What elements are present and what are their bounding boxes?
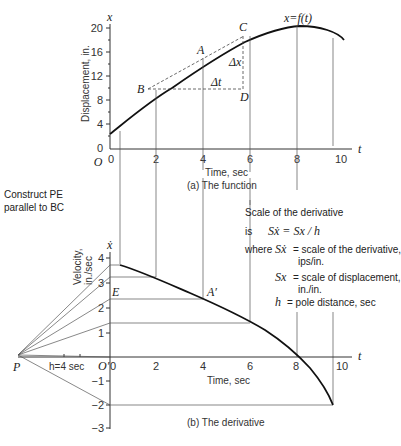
bottom-y-tick-neg3: −3 — [91, 422, 104, 434]
scale-formula: Sẋ = Sx / h — [268, 224, 320, 238]
bottom-y-label-2: in./sec — [83, 256, 94, 285]
pole-distance-label: h=4 sec — [49, 361, 84, 372]
bottom-y-axis-symbol: ẋ — [106, 238, 113, 252]
bottom-origin-label: O′ — [98, 359, 110, 373]
top-y-tick-8: 8 — [97, 94, 103, 106]
point-d: D — [239, 90, 249, 104]
bottom-x-tick-6: 6 — [247, 360, 253, 372]
bottom-y-tick-1: 1 — [98, 327, 104, 339]
scale-title: Scale of the derivative — [245, 207, 344, 218]
def3-text: = pole distance, sec — [287, 297, 376, 308]
bottom-y-tick-4: 4 — [98, 252, 104, 264]
top-y-tick-20: 20 — [91, 22, 103, 34]
def1-text: = scale of the derivative, — [293, 244, 401, 255]
displacement-curve — [110, 26, 344, 134]
bottom-x-tick-4: 4 — [200, 360, 206, 372]
delta-x-label: Δx — [228, 55, 242, 69]
bottom-x-tick-2: 2 — [153, 360, 159, 372]
def1-unit: ips/in. — [298, 256, 324, 267]
top-x-tick-0: 0 — [108, 153, 114, 165]
def1-symbol: Sẋ — [275, 242, 287, 256]
def2-unit: in./in. — [298, 284, 322, 295]
scale-note: Scale of the derivative is Sẋ = Sx / h w… — [244, 207, 401, 309]
construct-note: Construct PE parallel to BC — [4, 189, 64, 213]
top-y-axis-symbol: x — [106, 10, 113, 24]
top-y-tick-4: 4 — [97, 118, 103, 130]
def2-symbol: Sx — [275, 270, 287, 284]
construct-line-1: Construct PE — [4, 189, 63, 200]
top-y-tick-16: 16 — [91, 46, 103, 58]
point-a: A — [196, 43, 205, 57]
top-y-ticks — [106, 28, 110, 136]
pole-label: P — [12, 360, 21, 374]
bottom-y-label-1: Velocity, — [72, 249, 83, 286]
bottom-y-tick-2: 2 — [98, 302, 104, 314]
top-y-tick-0: 0 — [97, 142, 103, 154]
point-b: B — [137, 82, 145, 96]
bottom-x-label: Time, sec — [207, 375, 250, 386]
top-x-tick-10: 10 — [335, 153, 347, 165]
scale-where: where — [244, 244, 273, 255]
bottom-x-tick-0: 0 — [110, 360, 116, 372]
bottom-x-axis-symbol: t — [358, 349, 362, 363]
derivative-construction-diagram: 0 4 8 12 16 20 x t Displacement, in. O 0… — [0, 0, 401, 446]
point-a-prime: A′ — [206, 285, 217, 299]
delta-t-label: Δt — [210, 75, 222, 89]
top-x-axis-symbol: t — [358, 142, 362, 156]
top-y-label: Displacement, in. — [80, 45, 91, 122]
bottom-x-tick-10: 10 — [336, 360, 348, 372]
construct-line-2: parallel to BC — [4, 202, 64, 213]
top-plot: 0 4 8 12 16 20 x t Displacement, in. O 0… — [80, 10, 362, 191]
top-origin-label: O — [94, 155, 103, 169]
bottom-plot: ẋ t Velocity, in./sec 4 3 2 1 −1 −2 −3 0… — [12, 238, 362, 434]
def3-symbol: h — [275, 295, 281, 309]
scale-is: is — [245, 226, 252, 237]
bottom-x-tick-8: 8 — [293, 360, 299, 372]
bottom-caption: (b) The derivative — [187, 417, 265, 428]
def2-text: = scale of displacement, — [293, 272, 401, 283]
bottom-y-tick-neg1: −1 — [91, 375, 104, 387]
top-caption: (a) The function — [187, 180, 257, 191]
point-e: E — [111, 285, 120, 299]
curve-label: x=f(t) — [283, 11, 312, 25]
top-x-label: Time, sec — [205, 167, 248, 178]
top-y-tick-12: 12 — [91, 70, 103, 82]
point-c: C — [239, 20, 248, 34]
